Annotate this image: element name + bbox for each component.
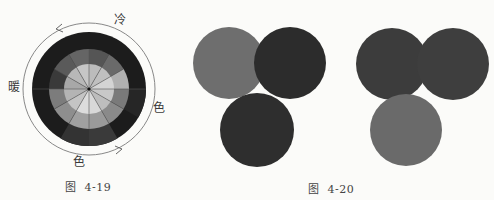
figure-4-20-left-group [190,20,330,160]
figure-caption: 图 4-20 [308,180,354,196]
circle-top-right [417,28,489,100]
circle-bottom [370,94,442,166]
color-wheel-diagram [0,0,180,180]
figure-caption: 图 4-19 [65,178,111,194]
label-cold: 冷 [114,10,126,27]
figure-4-20-right-group [350,20,490,160]
circle-top-right [254,27,326,99]
circle-bottom [220,93,294,167]
figure-4-19: 冷 暖 色 色 图 4-19 [0,0,180,200]
label-color-right: 色 [153,98,165,115]
label-color-bottom: 色 [73,152,85,169]
label-warm: 暖 [8,77,20,94]
